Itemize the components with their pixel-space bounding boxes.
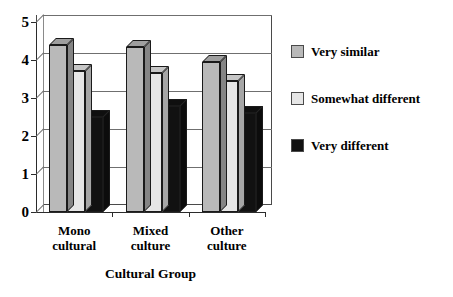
bar bbox=[49, 45, 67, 212]
x-tick-mark bbox=[265, 212, 266, 217]
bar-face bbox=[49, 45, 67, 212]
x-category-label-line: cultural bbox=[36, 239, 112, 254]
legend-item: Very similar bbox=[291, 45, 379, 58]
y-tick-label: 0 bbox=[22, 205, 30, 220]
legend-swatch-very-similar bbox=[291, 45, 304, 58]
x-axis-line bbox=[36, 212, 265, 213]
bar bbox=[126, 47, 144, 212]
legend-item: Somewhat different bbox=[291, 92, 420, 105]
x-tick-mark bbox=[112, 212, 113, 217]
y-tick-mark bbox=[31, 174, 36, 175]
y-tick-mark bbox=[31, 98, 36, 99]
bar-face bbox=[126, 47, 144, 212]
x-category-label-line: Mixed bbox=[112, 224, 188, 239]
x-tick-mark bbox=[189, 212, 190, 217]
x-category-label: Mixedculture bbox=[112, 224, 188, 253]
legend-swatch-somewhat-different bbox=[291, 92, 304, 105]
bar-side bbox=[180, 99, 187, 212]
x-category-label-line: Other bbox=[189, 224, 265, 239]
bar-side bbox=[144, 40, 151, 212]
bar-side bbox=[85, 64, 92, 212]
gridline bbox=[43, 53, 272, 54]
gridline bbox=[43, 15, 272, 16]
bar-side bbox=[220, 55, 227, 212]
bar-side bbox=[256, 106, 263, 212]
x-category-label-line: Mono bbox=[36, 224, 112, 239]
y-tick-label: 4 bbox=[22, 53, 30, 68]
bar-chart: 012345 MonoculturalMixedcultureOthercult… bbox=[0, 0, 453, 297]
y-tick-label: 3 bbox=[22, 91, 30, 106]
bar-side bbox=[67, 38, 74, 212]
y-tick-mark bbox=[31, 212, 36, 213]
y-tick-mark bbox=[31, 60, 36, 61]
chart-side-wall bbox=[36, 15, 44, 212]
x-category-label: Monocultural bbox=[36, 224, 112, 253]
chart-floor bbox=[36, 212, 272, 220]
y-tick-label: 5 bbox=[22, 15, 30, 30]
legend-label-somewhat-different: Somewhat different bbox=[311, 92, 420, 105]
y-tick-label: 1 bbox=[22, 167, 30, 182]
bar bbox=[202, 62, 220, 212]
y-tick-label: 2 bbox=[22, 129, 30, 144]
x-category-label-line: culture bbox=[189, 239, 265, 254]
legend-item: Very different bbox=[291, 139, 389, 152]
bar-side bbox=[162, 66, 169, 212]
x-category-label: Otherculture bbox=[189, 224, 265, 253]
y-tick-mark bbox=[31, 22, 36, 23]
bar-side bbox=[238, 74, 245, 212]
legend-label-very-similar: Very similar bbox=[311, 45, 379, 58]
plot-area: 012345 bbox=[36, 22, 265, 212]
bar-face bbox=[202, 62, 220, 212]
legend-swatch-very-different bbox=[291, 139, 304, 152]
legend-label-very-different: Very different bbox=[311, 139, 389, 152]
bar-side bbox=[103, 110, 110, 212]
x-category-label-line: culture bbox=[112, 239, 188, 254]
x-axis-title: Cultural Group bbox=[36, 266, 265, 282]
y-tick-mark bbox=[31, 136, 36, 137]
y-axis-line bbox=[36, 22, 37, 213]
